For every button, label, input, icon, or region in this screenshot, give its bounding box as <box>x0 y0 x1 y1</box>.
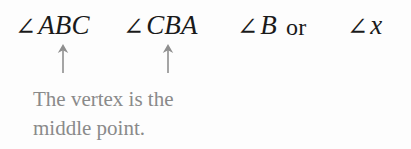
angle-label-abc: ABC <box>38 10 90 40</box>
up-arrow-icon <box>161 42 175 74</box>
angle-icon: ∠ <box>237 12 260 42</box>
angle-icon: ∠ <box>123 12 146 42</box>
angle-expression-b: ∠B <box>237 10 277 41</box>
angle-icon: ∠ <box>15 12 38 42</box>
angle-label-b: B <box>260 10 277 40</box>
caption-line-1: The vertex is the <box>33 85 174 114</box>
angle-expression-x: ∠x <box>347 10 382 41</box>
angle-label-x: x <box>370 10 382 40</box>
angle-expression-abc: ∠ABC <box>15 10 90 41</box>
caption-line-2: middle point. <box>33 114 145 143</box>
angle-expression-cba: ∠CBA <box>123 10 198 41</box>
angle-notation-figure: ∠ABC ∠CBA ∠B or ∠x The vertex is the mid… <box>0 0 411 149</box>
up-arrow-icon <box>56 42 70 74</box>
conjunction-or: or <box>286 12 306 42</box>
angle-icon: ∠ <box>347 12 370 42</box>
angle-label-cba: CBA <box>146 10 198 40</box>
